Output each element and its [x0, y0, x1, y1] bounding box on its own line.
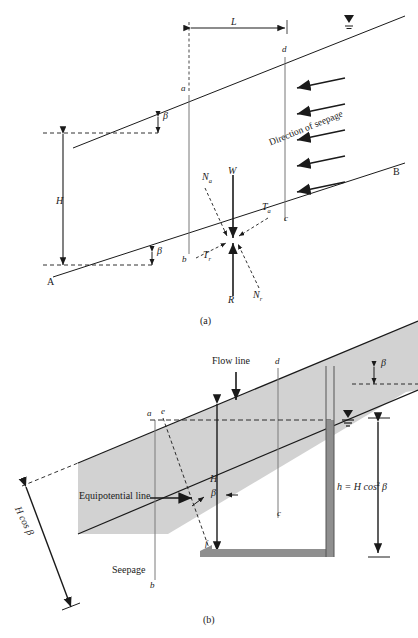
label-force-Na-sub: a	[209, 177, 212, 184]
caption-panel-b: (b)	[203, 615, 215, 625]
force-Na-arrow	[205, 188, 227, 236]
seepage-arrow-4	[297, 156, 345, 166]
force-Nr-arrow	[238, 244, 259, 288]
slope-surface-top	[73, 16, 405, 148]
label-height-H-b: H	[210, 474, 217, 484]
label-point-c: c	[284, 214, 288, 223]
label-force-Na-main: N	[202, 171, 209, 182]
hcosbeta-dimension-arrow	[26, 487, 71, 607]
water-table-symbol-a	[344, 15, 354, 29]
label-point-f-b: f	[205, 539, 208, 548]
label-force-Nr-sub: r	[260, 295, 263, 302]
slope-surface-bottom	[53, 163, 405, 277]
label-point-a: a	[181, 84, 186, 93]
label-beta-top-a: β	[163, 111, 168, 121]
label-point-d: d	[282, 45, 287, 54]
label-equipotential-line: Equipotential line	[79, 491, 150, 501]
label-point-e-b: e	[161, 407, 165, 416]
label-head-h-main: h = H cos	[337, 481, 377, 492]
label-force-Ta: Ta	[262, 202, 271, 215]
label-head-h-beta: β	[382, 481, 387, 492]
label-point-a-b: a	[147, 409, 152, 418]
label-force-Tr: Tr	[203, 250, 211, 263]
label-point-b: b	[182, 255, 187, 264]
hcosbeta-bottom-tick	[62, 603, 80, 610]
caption-panel-a: (a)	[200, 316, 211, 326]
label-point-A: A	[47, 277, 54, 287]
label-force-Tr-sub: r	[209, 255, 212, 262]
label-point-d-b: d	[275, 357, 280, 366]
label-beta-top-b: β	[381, 358, 386, 368]
label-force-Nr: Nr	[253, 290, 262, 303]
label-head-h: h = H cos2β	[337, 481, 387, 492]
label-force-Nr-main: N	[253, 289, 260, 300]
panel-a-geometry	[43, 15, 405, 296]
label-point-c-b: c	[277, 509, 281, 518]
label-head-h-exponent: 2	[377, 480, 380, 487]
label-length-L: L	[231, 17, 237, 27]
ground-surface-dashed-ext	[22, 463, 78, 486]
label-height-H: H	[56, 196, 63, 206]
label-point-B: B	[393, 167, 400, 177]
soil-mass-fill-right	[406, 321, 418, 392]
label-force-W: W	[228, 166, 236, 176]
label-force-R: R	[228, 295, 234, 305]
seepage-arrow-1	[297, 78, 345, 88]
force-Ta-arrow	[239, 218, 268, 236]
label-point-b-b: b	[150, 581, 155, 590]
label-seepage: Seepage	[112, 565, 145, 575]
label-force-Ta-sub: a	[268, 207, 271, 214]
figure-container: L H β β Direction of seepage a b c d A B…	[0, 0, 418, 638]
label-force-Na: Na	[202, 172, 212, 185]
label-beta-bottom-a: β	[157, 246, 162, 256]
label-flow-line: Flow line	[212, 356, 250, 366]
label-beta-mid-b: β	[211, 488, 216, 498]
